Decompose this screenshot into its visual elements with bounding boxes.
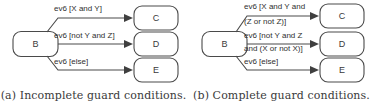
figure-panel-b: B ev6 [X and Y and (Z or not Z)] ev6 [no… — [188, 0, 375, 109]
state-node-e: E — [134, 58, 178, 82]
transition-label-line-2: (Z or not Z)] — [244, 17, 286, 26]
arrow-head-icon — [310, 66, 319, 74]
state-node-label: D — [339, 39, 346, 49]
state-node-label: C — [153, 13, 160, 23]
transition-edge-to-e: ev6 [else] — [236, 56, 319, 74]
transition-label-line-1: ev6 [else] — [244, 57, 278, 66]
arrow-head-icon — [124, 66, 133, 74]
transition-label-line-1: ev6 [not Y and Z — [244, 31, 303, 40]
state-node-e: E — [320, 58, 364, 82]
transition-label-line-1: ev6 [not Y and Z] — [54, 31, 115, 40]
transition-edge-to-e: ev6 [else] — [47, 56, 133, 74]
figure-two-panel-guard-conditions: B ev6 [X and Y] ev6 [not Y and Z] — [0, 0, 375, 109]
state-node-label: B — [221, 39, 227, 49]
panel-b-caption: (b) Complete guard conditions. — [188, 88, 375, 104]
state-node-label: E — [339, 65, 345, 75]
transition-label-line-1: ev6 [X and Y and — [244, 2, 305, 11]
transition-edge-to-c: ev6 [X and Y] — [47, 4, 133, 32]
state-node-label: B — [32, 39, 38, 49]
state-node-label: C — [339, 11, 346, 21]
state-node-d: D — [320, 32, 364, 56]
transition-label-line-1: ev6 [else] — [54, 57, 88, 66]
transition-line — [47, 18, 124, 32]
state-diagram-a: B ev6 [X and Y] ev6 [not Y and Z] — [0, 0, 187, 88]
figure-panel-a: B ev6 [X and Y] ev6 [not Y and Z] — [0, 0, 187, 109]
state-node-c: C — [134, 6, 178, 30]
state-node-d: D — [134, 32, 178, 56]
arrow-head-icon — [310, 40, 319, 48]
transition-edge-to-d: ev6 [not Y and Z and (X or not X)] — [244, 31, 319, 53]
state-node-c: C — [320, 4, 364, 28]
transition-label-line-2: and (X or not X)] — [244, 44, 303, 53]
transition-edge-to-c: ev6 [X and Y and (Z or not Z)] — [236, 2, 319, 32]
arrow-head-icon — [124, 14, 133, 22]
state-node-b-source: B — [13, 32, 58, 57]
state-node-label: E — [153, 65, 159, 75]
state-node-label: D — [153, 39, 160, 49]
state-diagram-b: B ev6 [X and Y and (Z or not Z)] ev6 [no… — [188, 0, 375, 88]
arrow-head-icon — [124, 40, 133, 48]
transition-label-line-1: ev6 [X and Y] — [54, 4, 102, 13]
panel-a-caption: (a) Incomplete guard conditions. — [0, 88, 187, 104]
transition-edge-to-d: ev6 [not Y and Z] — [54, 31, 133, 48]
arrow-head-icon — [310, 12, 319, 20]
state-node-b-source: B — [202, 32, 247, 57]
